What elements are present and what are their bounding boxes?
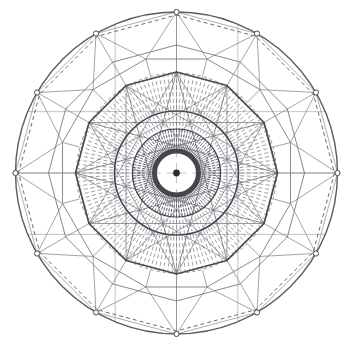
vertex-marker: [34, 251, 39, 256]
center-dot-shape: [173, 170, 180, 177]
vertex-marker: [313, 90, 318, 95]
vertex-marker: [34, 90, 39, 95]
mandala-diagram: [0, 0, 352, 347]
vertex-marker: [93, 31, 98, 36]
vertex-marker: [174, 9, 179, 14]
center-dot: [173, 170, 180, 177]
vertex-marker: [13, 170, 18, 175]
vertex-marker: [93, 310, 98, 315]
vertex-marker: [254, 310, 259, 315]
figure-root: [0, 0, 352, 347]
vertex-marker: [174, 331, 179, 336]
vertex-marker: [254, 31, 259, 36]
vertex-marker: [313, 251, 318, 256]
vertex-marker: [335, 170, 340, 175]
